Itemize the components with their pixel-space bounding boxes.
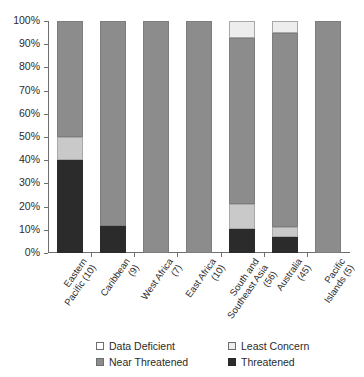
legend-label: Data Deficient [109, 340, 175, 353]
y-tick-label: 40% [19, 153, 40, 166]
bar-segment [186, 21, 212, 253]
y-tick-label: 100% [13, 14, 40, 27]
bar-6 [272, 21, 298, 253]
bar-segment [315, 21, 341, 253]
bar-segment [229, 38, 255, 204]
y-tick-label: 80% [19, 60, 40, 73]
stacked-bar-chart: 0%10%20%30%40%50%60%70%80%90%100% Easter… [0, 0, 364, 377]
bar-7 [315, 21, 341, 253]
y-tick-label: 10% [19, 223, 40, 236]
bar-segment [100, 21, 126, 226]
legend-item: Data Deficient [96, 340, 214, 353]
y-tick-label: 70% [19, 84, 40, 97]
bar-2 [100, 21, 126, 253]
bar-3 [143, 21, 169, 253]
legend-swatch-icon [228, 342, 236, 350]
legend-swatch-icon [96, 342, 104, 350]
bar-segment [100, 226, 126, 253]
bar-segment [272, 21, 298, 33]
legend-swatch-icon [228, 358, 236, 366]
bar-5 [229, 21, 255, 253]
legend-item: Threatened [228, 356, 346, 369]
bar-segment [229, 21, 255, 38]
legend-swatch-icon [96, 358, 104, 366]
plot-area: 0%10%20%30%40%50%60%70%80%90%100% [48, 21, 350, 253]
y-tick-label: 20% [19, 200, 40, 213]
bar-segment [229, 229, 255, 253]
y-tick: 0% [44, 253, 48, 254]
bar-segment [272, 33, 298, 228]
bar-segment [272, 227, 298, 237]
bar-segment [57, 137, 83, 160]
bars-layer [48, 21, 350, 253]
legend-label: Near Threatened [109, 356, 188, 369]
legend-item: Least Concern [228, 340, 346, 353]
legend-item: Near Threatened [96, 356, 214, 369]
y-tick-label: 0% [25, 246, 40, 259]
chart-legend: Data DeficientLeast ConcernNear Threaten… [96, 338, 346, 370]
y-tick-label: 90% [19, 37, 40, 50]
legend-label: Least Concern [241, 340, 309, 353]
bar-1 [57, 21, 83, 253]
bar-segment [143, 21, 169, 253]
bar-segment [272, 237, 298, 253]
legend-label: Threatened [241, 356, 295, 369]
bar-segment [229, 204, 255, 228]
y-tick-label: 50% [19, 130, 40, 143]
y-tick-label: 30% [19, 176, 40, 189]
bar-4 [186, 21, 212, 253]
bar-segment [57, 160, 83, 253]
y-tick-label: 60% [19, 107, 40, 120]
x-axis-labels: Eastern Pacific (10)Caribbean (9)West Af… [48, 256, 350, 328]
bar-segment [57, 21, 83, 137]
